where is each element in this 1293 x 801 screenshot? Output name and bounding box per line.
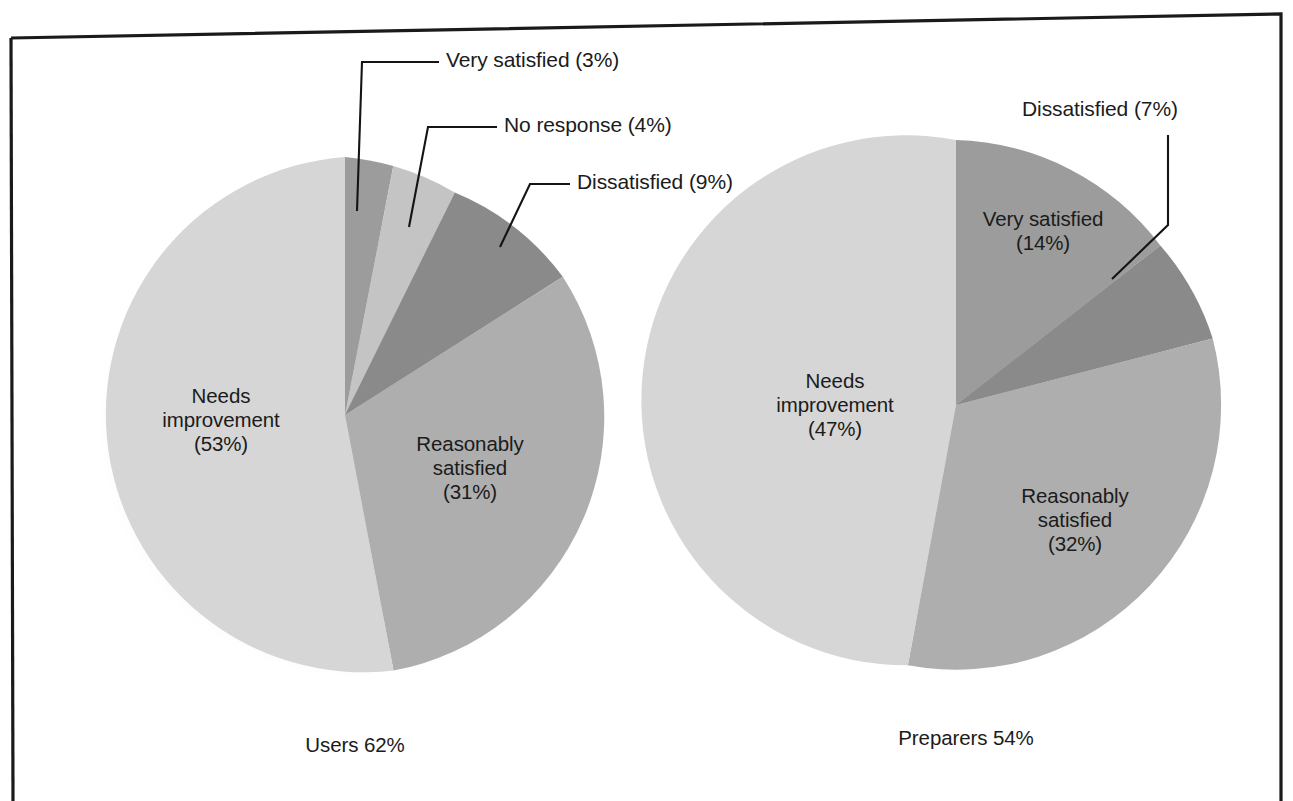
label-line: Reasonably [975, 484, 1175, 508]
label-line: (31%) [370, 480, 570, 504]
label-line: (14%) [950, 231, 1136, 255]
label-line: (47%) [730, 417, 940, 441]
label-line: (53%) [116, 432, 326, 456]
label-line: Needs [116, 384, 326, 408]
label-line: Reasonably [370, 432, 570, 456]
label-line: improvement [116, 408, 326, 432]
label-line: satisfied [370, 456, 570, 480]
label-line: (32%) [975, 532, 1175, 556]
callout-label-dissatisfied-users: Dissatisfied (9%) [577, 170, 733, 194]
pie-label-reasonably-satisfied-preparers: Reasonably satisfied (32%) [975, 484, 1175, 555]
pie-caption-preparers: Preparers 54% [856, 726, 1076, 750]
pie-label-needs-improvement-users: Needs improvement (53%) [116, 384, 326, 455]
pie-chart-users [93, 62, 611, 683]
pie-label-very-satisfied-preparers: Very satisfied (14%) [950, 207, 1136, 255]
callout-label-no-response-users: No response (4%) [504, 113, 672, 137]
callout-label-dissatisfied-preparers: Dissatisfied (7%) [1022, 97, 1178, 121]
pie-label-needs-improvement-preparers: Needs improvement (47%) [730, 369, 940, 440]
label-line: Very satisfied [950, 207, 1136, 231]
label-line: Needs [730, 369, 940, 393]
figure-container: Needs improvement (53%) Reasonably satis… [0, 0, 1293, 801]
label-line: improvement [730, 393, 940, 417]
pie-caption-users: Users 62% [245, 733, 465, 757]
label-line: satisfied [975, 508, 1175, 532]
pie-label-reasonably-satisfied-users: Reasonably satisfied (31%) [370, 432, 570, 503]
callout-label-very-satisfied-users: Very satisfied (3%) [446, 48, 619, 72]
